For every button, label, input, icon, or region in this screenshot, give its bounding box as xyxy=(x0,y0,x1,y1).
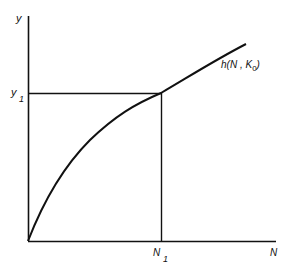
y1-label: y xyxy=(10,86,18,98)
curve-label-close: ) xyxy=(256,59,260,70)
curve-label-main: h(N , K xyxy=(221,59,253,70)
curve-label: h(N , K0) xyxy=(221,59,260,73)
y1-subscript: 1 xyxy=(19,94,24,104)
curve-h-n-k0 xyxy=(28,44,246,241)
n1-label: N xyxy=(153,247,161,258)
y-axis-label: y xyxy=(15,12,23,24)
n1-subscript: 1 xyxy=(163,254,168,264)
x-axis-label: N xyxy=(270,247,278,258)
production-function-diagram: y N y 1 N 1 h(N , K0) xyxy=(0,0,288,271)
